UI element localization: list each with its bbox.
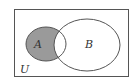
universe-label: U [20,63,30,76]
venn-diagram: A B U [0,0,137,82]
set-b-label: B [84,38,93,51]
set-a-label: A [33,38,42,51]
